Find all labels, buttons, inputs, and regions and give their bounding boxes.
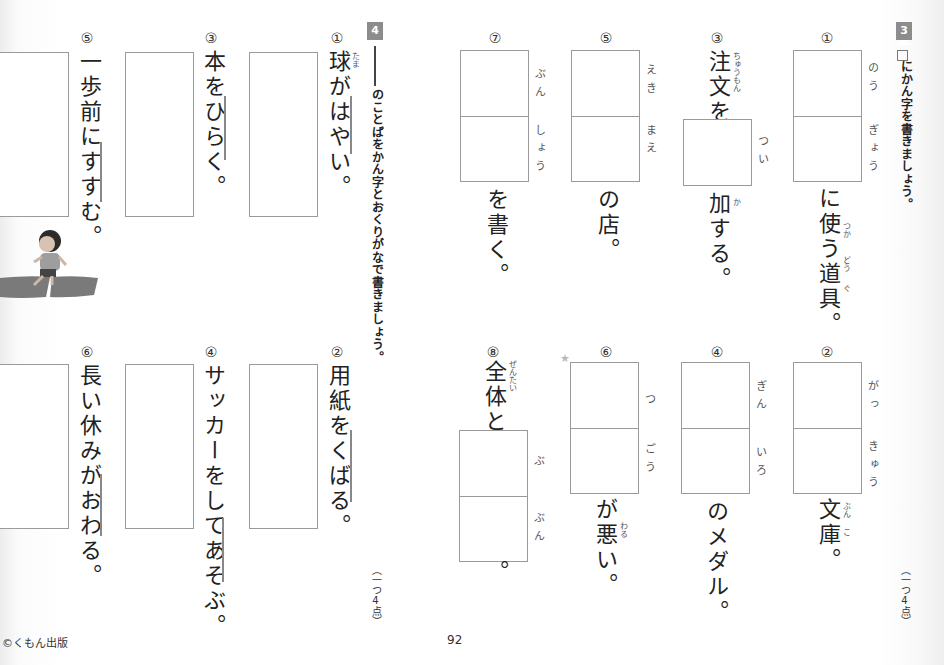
underline xyxy=(100,474,102,536)
item-number: ⑥ xyxy=(596,342,616,362)
answer-box[interactable] xyxy=(125,364,194,529)
reading-hint: しょう xyxy=(531,124,547,178)
reading-hint: ごう xyxy=(641,443,657,479)
sentence-prefix: 注文を xyxy=(703,50,731,125)
shadow-right xyxy=(50,276,98,297)
reading-hint: まえ xyxy=(642,124,658,160)
sentence-suffix: の店。 xyxy=(592,188,620,263)
page-number: 92 xyxy=(447,633,462,647)
ruby-text: ちゅうもん xyxy=(730,52,741,92)
section-4-instruction: のことばをかん字とおくりがなで書きましょう。 xyxy=(368,88,385,363)
sentence: 本をひらく。 xyxy=(198,50,226,200)
item-number: ④ xyxy=(201,342,221,362)
section-4-badge: 4 xyxy=(367,22,383,40)
reading-hint: のう xyxy=(864,62,880,98)
section-3-badge: 3 xyxy=(896,22,912,40)
underline xyxy=(350,430,352,502)
walking-boy-illustration xyxy=(0,225,100,305)
kanji-answer-box[interactable] xyxy=(571,50,640,182)
item-number: ⑤ xyxy=(596,28,616,48)
item-number: ⑤ xyxy=(77,28,97,48)
ruby-text: ぶん xyxy=(840,502,851,518)
item-number: ③ xyxy=(707,28,727,48)
ruby-text: ぜんたい xyxy=(506,360,517,392)
answer-box[interactable] xyxy=(125,52,194,217)
reading-hint: つい xyxy=(754,135,770,171)
item-number: ② xyxy=(327,342,347,362)
kanji-answer-box[interactable] xyxy=(683,119,752,186)
reading-hint: ぶん xyxy=(531,68,547,104)
underline-marker xyxy=(374,46,376,86)
worksheet-page: 3 にかん字を書きましょう。 （一つ4点） ① のう ぎょう に使う道具。 つか… xyxy=(0,0,944,665)
answer-box[interactable] xyxy=(249,52,318,217)
sentence-suffix: を書く。 xyxy=(481,188,509,288)
ruby-text: つか xyxy=(840,222,851,238)
ruby-text: こ xyxy=(840,528,851,536)
reading-hint: ぶ xyxy=(530,455,546,473)
reading-hint: ぎょう xyxy=(864,124,880,178)
ruby-text: ぐ xyxy=(840,284,851,292)
reading-hint: がっ xyxy=(864,380,880,416)
copyright: ©くもん出版 xyxy=(2,634,68,650)
sentence-suffix: が悪い。 xyxy=(590,498,618,598)
sentence: 球がはやい。 xyxy=(323,50,351,200)
section-3-points: （一つ4点） xyxy=(897,565,912,626)
reading-hint: ぎん xyxy=(752,380,768,416)
underline xyxy=(224,96,226,160)
ruby-text: か xyxy=(730,198,741,206)
section-3-instruction: にかん字を書きましょう。 xyxy=(897,60,914,210)
boy-shirt xyxy=(40,253,60,271)
kanji-answer-box[interactable] xyxy=(460,50,529,182)
ruby-text: たま xyxy=(349,52,360,68)
sentence-suffix: 。 xyxy=(481,560,509,585)
item-number: ① xyxy=(327,28,347,48)
sentence-suffix: 文庫。 xyxy=(813,498,841,573)
item-number: ① xyxy=(817,28,837,48)
shadow-left xyxy=(0,276,50,298)
section-4-points: （一つ4点） xyxy=(368,565,383,626)
item-number: ② xyxy=(817,342,837,362)
item-number: ④ xyxy=(707,342,727,362)
sentence: 用紙をくばる。 xyxy=(323,364,351,539)
ruby-text: わる xyxy=(617,522,628,538)
answer-box[interactable] xyxy=(249,364,318,529)
reading-hint: きゅう xyxy=(864,440,880,494)
item-number: ③ xyxy=(201,28,221,48)
sentence-suffix: に使う道具。 xyxy=(813,187,841,337)
kanji-answer-box[interactable] xyxy=(681,362,750,494)
kanji-answer-box[interactable] xyxy=(459,430,528,562)
answer-box[interactable] xyxy=(0,364,69,529)
reading-hint: えき xyxy=(642,64,658,100)
sentence-suffix: のメダル。 xyxy=(701,500,729,625)
sentence-prefix: 全体と xyxy=(479,360,507,435)
item-number: ⑥ xyxy=(77,342,97,362)
sentence: 長い休みがおわる。 xyxy=(74,364,102,589)
ruby-text: どう xyxy=(840,256,851,272)
kanji-answer-box[interactable] xyxy=(570,362,639,494)
boy-arm xyxy=(59,257,66,265)
underline xyxy=(100,142,102,202)
item-number: ⑧ xyxy=(483,342,503,362)
reading-hint: つ xyxy=(641,393,657,411)
kanji-answer-box[interactable] xyxy=(793,50,862,182)
kanji-answer-box[interactable] xyxy=(793,362,862,494)
sentence: サッカーをしてあそぶ。 xyxy=(198,364,226,639)
item-number: ⑦ xyxy=(485,28,505,48)
underline xyxy=(350,96,352,154)
sentence-suffix: 加する。 xyxy=(703,192,731,292)
reading-hint: ぶん xyxy=(530,512,546,548)
reading-hint: いろ xyxy=(752,446,768,482)
sentence: 一歩前にすすむ。 xyxy=(74,50,102,250)
boy-face xyxy=(39,236,55,252)
answer-box[interactable] xyxy=(0,52,69,217)
star-icon: ★ xyxy=(560,352,570,365)
underline xyxy=(222,518,224,582)
